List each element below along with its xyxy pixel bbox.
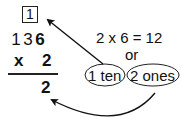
diagram-graphics <box>0 0 182 128</box>
ones-arrow <box>52 93 155 116</box>
tens-label: 1 ten <box>88 67 121 84</box>
ones-label: 2 ones <box>130 67 175 84</box>
carry-arrow <box>48 20 103 64</box>
